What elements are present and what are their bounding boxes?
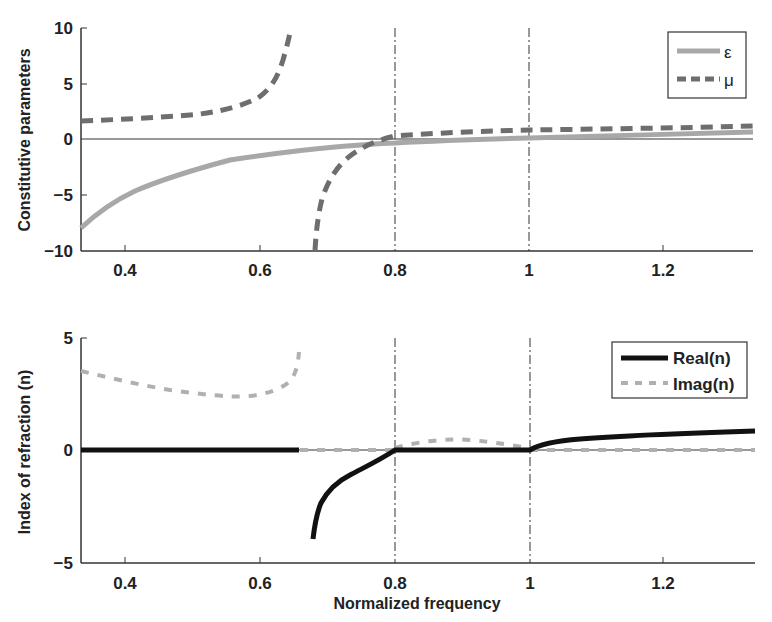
bottom-ytick-neg5: −5 [54,554,73,573]
bottom-xtick: 0.6 [248,574,272,593]
legend-mu-label: μ [724,71,734,90]
bottom-xtick: 1.2 [651,574,675,593]
top-xtick: 1.2 [651,261,675,280]
legend-imag-label: Imag(n) [673,375,734,394]
bottom-ytick-0: 0 [64,441,73,460]
bottom-plot: 5 0 −5 0.4 0.6 0.8 1 1.2 Normalized freq… [16,329,755,612]
legend-epsilon-label: ε [724,43,732,62]
top-xtick: 0.6 [248,261,272,280]
top-xtick: 0.4 [113,261,137,280]
bottom-xtick: 0.8 [383,574,407,593]
mu-curve-branch-1 [81,28,291,121]
top-xtick: 1 [524,261,533,280]
bottom-ytick-5: 5 [64,329,73,348]
top-ytick-10: 10 [54,19,73,38]
bottom-y-label: Index of refraction (n) [16,370,33,534]
top-xtick: 0.8 [383,261,407,280]
x-axis-label: Normalized frequency [333,595,500,612]
real-n-curve [81,431,755,539]
legend-real-label: Real(n) [673,349,731,368]
figure: 10 5 0 −5 −10 0.4 0.6 0.8 1 1.2 Constitu… [0,0,772,622]
top-ytick-neg10: −10 [44,242,73,261]
bottom-legend: Real(n) Imag(n) [612,342,747,398]
top-ytick-0: 0 [64,130,73,149]
top-legend: ε μ [668,32,746,98]
epsilon-curve [81,132,753,228]
top-y-label: Constitutive parameters [16,48,33,231]
top-ytick-neg5: −5 [54,186,73,205]
bottom-xtick: 0.4 [113,574,137,593]
bottom-xtick: 1 [525,574,534,593]
top-ytick-5: 5 [64,75,73,94]
top-plot: 10 5 0 −5 −10 0.4 0.6 0.8 1 1.2 Constitu… [16,19,753,280]
